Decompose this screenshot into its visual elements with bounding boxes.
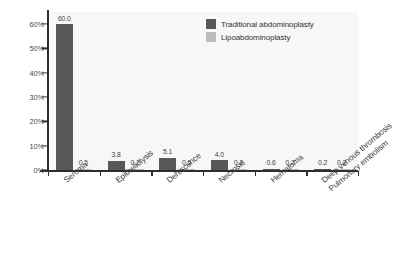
y-axis-tick-label: 0% xyxy=(0,166,44,175)
y-axis-tick-mark xyxy=(42,96,47,97)
y-axis-tick-mark xyxy=(42,121,47,122)
x-axis-tick-mark xyxy=(151,171,152,176)
bar xyxy=(159,158,176,170)
y-axis-tick-mark xyxy=(42,48,47,49)
x-axis-tick-mark xyxy=(100,171,101,176)
legend-item-label: Traditional abdominoplasty xyxy=(221,20,314,29)
y-axis-tick-label: 60% xyxy=(0,20,44,29)
x-axis-tick-mark xyxy=(255,171,256,176)
y-axis-tick-mark xyxy=(42,169,47,170)
x-axis-line xyxy=(40,170,358,172)
y-axis-tick-mark xyxy=(42,145,47,146)
x-axis-tick-mark xyxy=(306,171,307,176)
y-axis-tick-label: 40% xyxy=(0,68,44,77)
bar-value-label: 0.6 xyxy=(266,159,275,166)
legend-item-label: Lipoabdominoplasty xyxy=(221,33,290,42)
bar-value-label: 3.8 xyxy=(111,151,120,158)
legend-item[interactable]: Traditional abdominoplasty xyxy=(206,19,314,29)
bar xyxy=(211,160,228,170)
x-axis-tick-mark xyxy=(48,171,49,176)
y-axis-tick-label: 10% xyxy=(0,141,44,150)
legend-item[interactable]: Lipoabdominoplasty xyxy=(206,32,314,42)
y-axis-tick-label: 50% xyxy=(0,44,44,53)
y-axis-line xyxy=(47,10,49,172)
chart-legend: Traditional abdominoplastyLipoabdominopl… xyxy=(206,19,314,45)
bar xyxy=(56,24,73,170)
bar-value-label: 5.1 xyxy=(163,148,172,155)
y-axis-tick-label: 20% xyxy=(0,117,44,126)
bar-value-label: 0.2 xyxy=(318,159,327,166)
y-axis-tick-mark xyxy=(42,72,47,73)
bar xyxy=(108,161,125,170)
x-axis-tick-mark xyxy=(203,171,204,176)
bar-value-label: 4.0 xyxy=(215,151,224,158)
legend-color-swatch xyxy=(206,32,216,42)
y-axis-tick-mark xyxy=(42,24,47,25)
y-axis-tick-label: 30% xyxy=(0,93,44,102)
bar-value-label: 60.0 xyxy=(58,15,71,22)
legend-color-swatch xyxy=(206,19,216,29)
